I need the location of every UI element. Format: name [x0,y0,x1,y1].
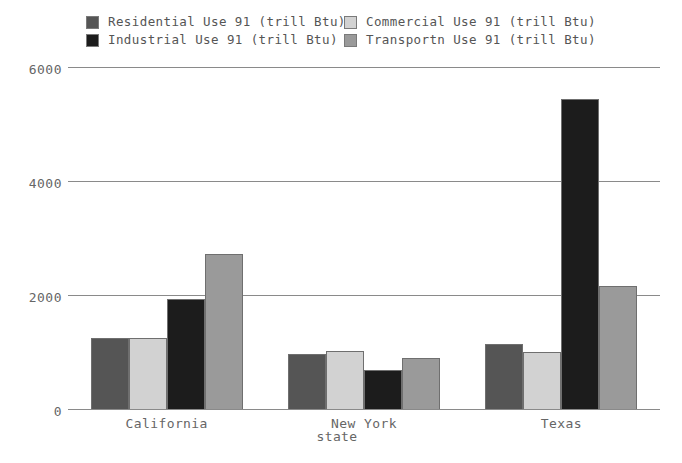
legend-label-residential: Residential Use 91 (trill Btu) [108,15,346,29]
legend-swatch-residential-icon [86,16,99,29]
bar [167,299,205,410]
bar [485,344,523,410]
y-tick-label-2000: 2000 [6,290,62,305]
plot-area: 6000400020000 CaliforniaNew YorkTexas [68,68,660,410]
bar [364,370,402,410]
bar [402,358,440,410]
legend-entry-residential: Residential Use 91 (trill Btu) [86,13,326,31]
x-axis-line [68,409,660,410]
bar-group: New York [288,68,440,410]
bar-group: California [91,68,243,410]
legend-label-industrial: Industrial Use 91 (trill Btu) [108,33,338,47]
bar [91,338,129,410]
bar [129,338,167,410]
legend-label-commercial: Commercial Use 91 (trill Btu) [366,15,596,29]
bar-chart: Residential Use 91 (trill Btu) Commercia… [0,0,682,463]
legend-swatch-transportn-icon [344,34,357,47]
bar-groups: CaliforniaNew YorkTexas [68,68,660,410]
legend-entry-transportn: Transportn Use 91 (trill Btu) [344,31,584,49]
legend-swatch-commercial-icon [344,16,357,29]
legend-entry-commercial: Commercial Use 91 (trill Btu) [344,13,584,31]
bar [326,351,364,410]
bar [523,352,561,410]
y-tick-label-4000: 4000 [6,176,62,191]
legend-entry-industrial: Industrial Use 91 (trill Btu) [86,31,326,49]
legend-label-transportn: Transportn Use 91 (trill Btu) [366,33,596,47]
x-axis-title: state [316,429,357,444]
bar-group: Texas [485,68,637,410]
legend-swatch-industrial-icon [86,34,99,47]
bar [205,254,243,410]
bar [599,286,637,410]
chart-legend: Residential Use 91 (trill Btu) Commercia… [86,13,646,49]
y-tick-label-0: 0 [6,404,62,419]
x-axis-title-wrap: state [0,429,682,444]
bar [561,99,599,410]
bar [288,354,326,410]
y-tick-label-6000: 6000 [6,62,62,77]
